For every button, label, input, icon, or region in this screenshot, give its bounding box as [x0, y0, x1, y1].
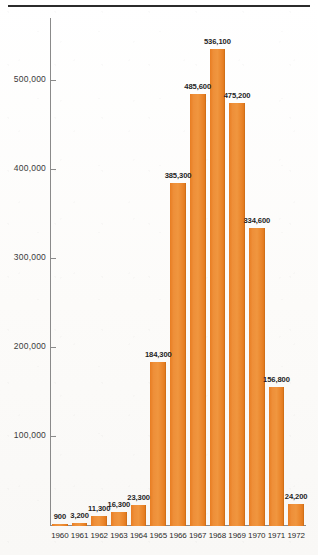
bar[interactable]	[269, 387, 285, 526]
plot-area	[50, 18, 306, 526]
y-axis-tick-label: 500,000	[0, 74, 46, 84]
bar-value-label: 334,600	[235, 216, 279, 225]
bar[interactable]	[190, 94, 206, 526]
bar[interactable]	[288, 504, 304, 526]
bar[interactable]	[210, 49, 226, 526]
y-axis-tick-label: 100,000	[0, 430, 46, 440]
bar-value-label: 485,600	[176, 82, 220, 91]
y-axis-tick-label: 200,000	[0, 341, 46, 351]
y-axis-tick-label: 300,000	[0, 252, 46, 262]
bar-value-label: 23,300	[117, 493, 161, 502]
bar-value-label: 536,100	[195, 37, 239, 46]
bar[interactable]	[72, 523, 88, 526]
bar-value-label: 156,800	[254, 375, 298, 384]
top-rule-divider	[8, 5, 310, 7]
bar-chart-figure: 100,000200,000300,000400,000500,000 9003…	[0, 0, 318, 555]
x-axis-tick-label: 1972	[284, 531, 308, 540]
bar[interactable]	[229, 103, 245, 526]
bar[interactable]	[111, 512, 127, 526]
bar[interactable]	[52, 524, 68, 526]
bar-value-label: 385,300	[156, 171, 200, 180]
y-axis-tick-label: 400,000	[0, 163, 46, 173]
bar-value-label: 475,200	[215, 91, 259, 100]
bar-value-label: 24,200	[274, 492, 318, 501]
bar-value-label: 184,300	[136, 350, 180, 359]
